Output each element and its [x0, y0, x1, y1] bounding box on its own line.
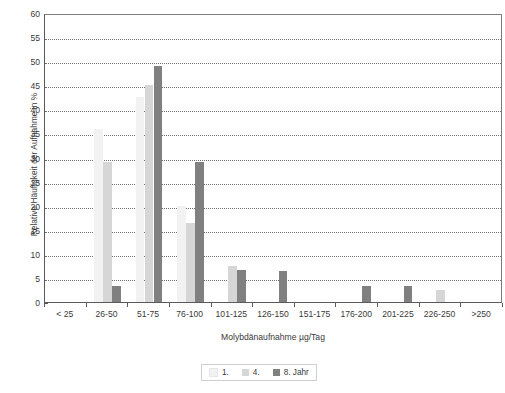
bar — [362, 286, 371, 302]
x-axis-title: Molybdänaufnahme µg/Tag — [44, 332, 502, 342]
bar-group — [261, 15, 288, 302]
bar — [145, 85, 154, 302]
x-axis-tick-mark — [502, 303, 503, 307]
x-axis-tick-mark — [127, 303, 128, 307]
x-axis-tick-label: < 25 — [56, 309, 73, 319]
bar — [228, 266, 237, 302]
x-axis-tick-mark — [294, 303, 295, 307]
bar-group — [302, 15, 329, 302]
legend-swatch-icon — [273, 369, 280, 376]
legend: 1.4.8. Jahr — [201, 364, 317, 381]
x-axis-tick-mark — [169, 303, 170, 307]
bar-group — [53, 15, 80, 302]
x-axis-tick-label: 76-100 — [176, 309, 203, 319]
x-axis-tick-label: 126-150 — [257, 309, 289, 319]
bar — [136, 97, 145, 302]
bar-group — [386, 15, 413, 302]
bar — [279, 271, 288, 302]
bar — [237, 270, 246, 302]
x-axis-tick-mark — [419, 303, 420, 307]
bar-chart: Relative Häufigkeit der Aufnahme in % 05… — [0, 0, 505, 393]
y-axis-tick-marks — [0, 14, 50, 303]
bar — [436, 290, 445, 302]
legend-swatch-icon — [242, 369, 249, 376]
x-axis-tick-mark — [86, 303, 87, 307]
bar — [186, 223, 195, 302]
x-axis-tick-label: 51-75 — [137, 309, 159, 319]
x-axis-tick-mark — [44, 303, 45, 307]
x-axis-tick-mark — [460, 303, 461, 307]
bar-group — [344, 15, 371, 302]
bar — [94, 129, 103, 302]
legend-swatch-icon — [209, 368, 218, 377]
bar-group — [136, 15, 163, 302]
legend-entry: 1. — [209, 368, 229, 377]
plot-area — [44, 14, 502, 303]
legend-entry: 8. Jahr — [273, 368, 309, 377]
x-axis-tick-label: 176-200 — [340, 309, 372, 319]
x-axis-tick-mark — [335, 303, 336, 307]
x-axis-tick-mark — [211, 303, 212, 307]
bar-group — [219, 15, 246, 302]
bar-group — [177, 15, 204, 302]
x-axis-tick-mark — [377, 303, 378, 307]
bar — [103, 162, 112, 302]
x-axis-tick-labels: < 2526-5051-7576-100101-125126-150151-17… — [44, 309, 502, 323]
x-axis-tick-label: 226-250 — [424, 309, 456, 319]
x-axis-tick-label: 26-50 — [95, 309, 117, 319]
x-axis-tick-marks — [44, 303, 502, 308]
bar — [195, 162, 204, 302]
bar — [177, 206, 186, 302]
x-axis-tick-label: 151-175 — [299, 309, 331, 319]
bar-group — [94, 15, 121, 302]
bar-group — [427, 15, 454, 302]
legend-label: 1. — [222, 368, 229, 377]
bar-group — [469, 15, 496, 302]
bar — [112, 286, 121, 302]
legend-label: 4. — [253, 368, 260, 377]
x-axis-tick-label: >250 — [471, 309, 490, 319]
legend-entry: 4. — [242, 368, 260, 377]
bar — [154, 66, 163, 302]
legend-label: 8. Jahr — [284, 368, 309, 377]
bar — [404, 286, 413, 302]
bars-layer — [45, 15, 501, 302]
x-axis-tick-label: 201-225 — [382, 309, 414, 319]
x-axis-tick-mark — [252, 303, 253, 307]
x-axis-tick-label: 101-125 — [216, 309, 248, 319]
